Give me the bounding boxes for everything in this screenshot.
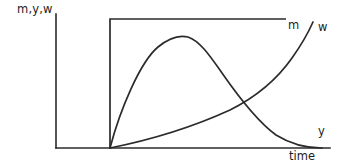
y-axis-label: m,y,w <box>17 4 53 16</box>
series-curve-m <box>110 19 286 148</box>
series-label-y: y <box>318 126 325 138</box>
series-curve-y <box>110 36 322 148</box>
series-label-w: w <box>318 22 327 34</box>
series-curve-w <box>110 22 313 148</box>
x-axis-label: time <box>289 151 315 163</box>
figure-root: m,y,w time m w y <box>0 0 345 167</box>
series-label-m: m <box>288 20 299 32</box>
